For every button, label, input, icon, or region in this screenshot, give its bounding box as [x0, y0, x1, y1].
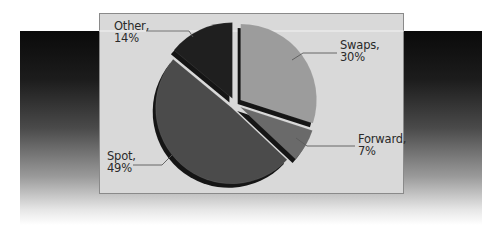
label-other-value: 14%: [114, 32, 149, 44]
leader-line-other: [146, 31, 193, 37]
label-swaps: Swaps, 30%: [340, 39, 380, 63]
leader-line-spot: [133, 155, 172, 165]
label-spot: Spot, 49%: [107, 150, 136, 174]
label-spot-value: 49%: [107, 162, 136, 174]
label-forward-value: 7%: [358, 145, 406, 157]
label-swaps-value: 30%: [340, 51, 380, 63]
pie-chart: [0, 0, 499, 236]
label-other: Other, 14%: [114, 20, 149, 44]
label-forward: Forward, 7%: [358, 133, 406, 157]
